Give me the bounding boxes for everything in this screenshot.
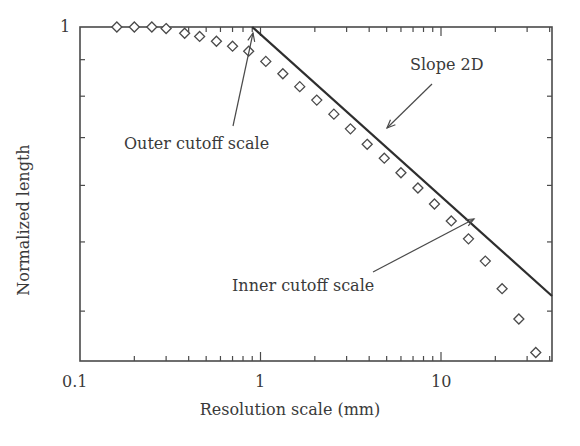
arrow-inner-cutoff bbox=[373, 219, 474, 272]
diamond-marker bbox=[413, 183, 423, 193]
plot-frame bbox=[80, 27, 552, 361]
diamond-marker bbox=[514, 314, 524, 324]
x-tick-label-0.1: 0.1 bbox=[62, 372, 87, 391]
diamond-marker bbox=[195, 31, 205, 41]
diamond-marker bbox=[329, 109, 339, 119]
diamond-marker bbox=[362, 139, 372, 149]
diamond-marker bbox=[211, 36, 221, 46]
diamond-marker bbox=[295, 82, 305, 92]
diamond-marker bbox=[480, 256, 490, 266]
diamond-marker bbox=[345, 124, 355, 134]
diamond-marker bbox=[497, 284, 507, 294]
x-tick-label-10: 10 bbox=[431, 372, 451, 391]
diamond-marker bbox=[129, 22, 139, 32]
x-axis-label: Resolution scale (mm) bbox=[0, 400, 580, 419]
diamond-marker bbox=[278, 69, 288, 79]
slope-2d-line bbox=[252, 27, 552, 296]
arrow-slope-2d bbox=[387, 84, 432, 128]
x-tick-label-1: 1 bbox=[255, 372, 265, 391]
diamond-marker bbox=[228, 41, 238, 51]
diamond-marker bbox=[396, 168, 406, 178]
annotation-outer-cutoff: Outer cutoff scale bbox=[124, 134, 269, 153]
annotation-slope-2d: Slope 2D bbox=[410, 55, 484, 74]
diamond-marker bbox=[112, 22, 122, 32]
diamond-marker bbox=[161, 24, 171, 34]
diamond-marker bbox=[147, 22, 157, 32]
diamond-marker bbox=[379, 153, 389, 163]
annotation-inner-cutoff: Inner cutoff scale bbox=[232, 276, 374, 295]
diamond-marker bbox=[429, 199, 439, 209]
diamond-marker bbox=[261, 56, 271, 66]
slope-line bbox=[252, 27, 552, 296]
diamond-marker bbox=[463, 234, 473, 244]
diamond-marker bbox=[312, 95, 322, 105]
y-axis-label: Normalized length bbox=[8, 100, 38, 340]
plot-axes bbox=[80, 27, 552, 361]
diamond-marker bbox=[531, 348, 541, 358]
diamond-marker bbox=[446, 216, 456, 226]
y-tick-label-1: 1 bbox=[60, 17, 70, 36]
